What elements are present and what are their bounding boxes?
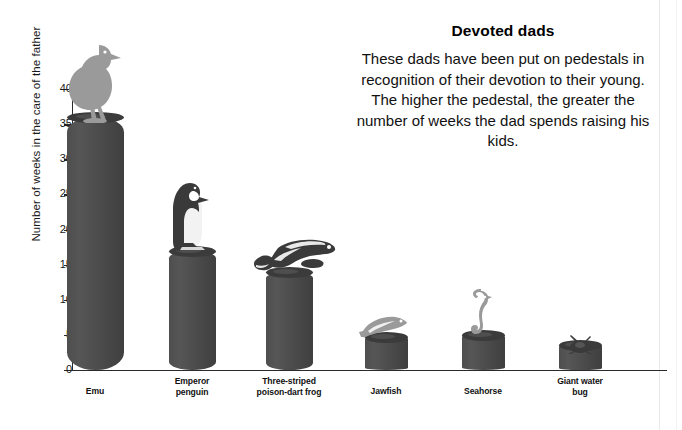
- infographic-root: Number of weeks in the care of the fathe…: [0, 0, 682, 430]
- category-label-line: Giant water: [520, 376, 640, 387]
- bar-group[interactable]: [169, 251, 216, 370]
- poison-dart-frog-icon: [252, 236, 338, 276]
- pedestal-bar[interactable]: [266, 272, 313, 370]
- category-label-line: bug: [520, 387, 640, 398]
- jawfish-icon: [357, 314, 409, 340]
- pedestal-bar[interactable]: [462, 335, 505, 370]
- giant-water-bug-icon: [563, 334, 597, 354]
- bar-group[interactable]: [462, 335, 505, 370]
- panel-body: These dads have been put on pedestals in…: [352, 49, 654, 152]
- seahorse-icon: [470, 289, 496, 337]
- panel-title: Devoted dads: [352, 22, 654, 40]
- bar-group[interactable]: [266, 272, 313, 370]
- emu-icon: [59, 37, 131, 123]
- category-label: Giant waterbug: [520, 376, 640, 397]
- pedestal-bar[interactable]: [169, 251, 216, 370]
- pedestal-bar[interactable]: [67, 117, 124, 370]
- pedestal-bar[interactable]: [559, 345, 602, 370]
- bar-group[interactable]: [559, 345, 602, 370]
- category-label-line: Three-striped: [229, 376, 349, 387]
- emperor-penguin-icon: [173, 179, 217, 253]
- bar-group[interactable]: [67, 117, 124, 370]
- pedestal-bar[interactable]: [365, 337, 408, 370]
- description-panel: Devoted dads These dads have been put on…: [352, 22, 654, 152]
- bar-group[interactable]: [365, 337, 408, 370]
